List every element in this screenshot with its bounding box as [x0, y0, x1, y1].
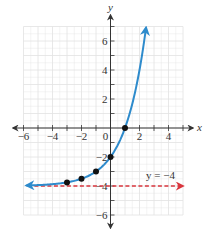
exponential-curve	[26, 28, 146, 186]
x-tick-label: −4	[47, 130, 59, 142]
x-tick-label: 4	[166, 130, 172, 142]
y-axis-label: y	[107, 1, 113, 13]
y-tick-label: −6	[96, 209, 108, 221]
exponential-graph: −6−4−2024642−2−4−6 x y y = −4	[0, 0, 211, 240]
data-point	[122, 125, 128, 131]
data-point	[79, 176, 85, 182]
x-tick-label: 2	[137, 130, 143, 142]
y-tick-label: 2	[102, 93, 108, 105]
x-tick-label: −2	[76, 130, 88, 142]
data-point	[93, 169, 99, 175]
y-tick-label: 4	[102, 64, 108, 76]
x-tick-label: −6	[18, 130, 30, 142]
data-point	[108, 154, 114, 160]
asymptote-label: y = −4	[146, 169, 175, 181]
x-axis-label: x	[196, 121, 202, 133]
x-tick-label: 0	[103, 130, 109, 142]
data-point	[64, 179, 70, 185]
y-tick-label: −2	[96, 151, 108, 163]
y-tick-label: 6	[102, 35, 108, 47]
